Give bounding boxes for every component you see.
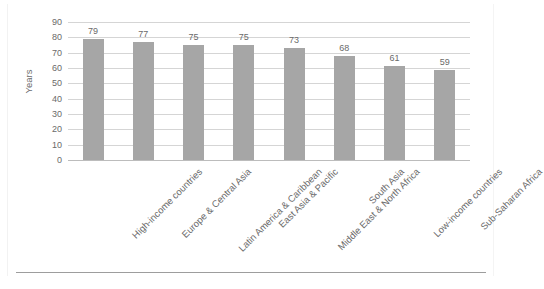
bar[interactable] — [434, 70, 455, 160]
bar[interactable] — [233, 45, 254, 160]
plot-area — [68, 22, 470, 160]
x-axis-category-label: Middle East & North Africa — [336, 166, 422, 252]
y-axis-tick-label: 30 — [40, 110, 62, 119]
y-axis-tick-label: 0 — [40, 156, 62, 165]
y-axis-title: Years — [8, 62, 48, 102]
x-axis-category-label: Latin America & Caribbean — [236, 166, 324, 254]
x-axis-category-label: Europe & Central Asia — [180, 166, 254, 240]
y-axis-tick-label: 80 — [40, 33, 62, 42]
gridline — [68, 37, 470, 38]
figure-right-rule — [493, 4, 494, 276]
bar[interactable] — [83, 39, 104, 160]
x-axis-category-label: Sub-Saharan Africa — [478, 166, 544, 232]
figure-left-rule — [7, 4, 8, 276]
y-axis-tick-label: 20 — [40, 125, 62, 134]
bar[interactable] — [183, 45, 204, 160]
gridline — [68, 114, 470, 115]
gridline — [68, 68, 470, 69]
y-axis-title-text: Years — [23, 54, 34, 110]
bar[interactable] — [384, 66, 405, 160]
x-axis-category-label: East Asia & Pacific — [276, 166, 340, 230]
y-axis-tick-label: 70 — [40, 49, 62, 58]
gridline — [68, 83, 470, 84]
y-axis-tick-label: 10 — [40, 141, 62, 150]
gridline — [68, 145, 470, 146]
bar[interactable] — [133, 42, 154, 160]
x-axis-category-label: South Asia — [367, 166, 407, 206]
figure-bottom-rule — [16, 272, 486, 273]
y-axis-tick-label: 90 — [40, 18, 62, 27]
axis-baseline — [68, 160, 470, 161]
x-axis-category-label: High-income countries — [130, 166, 205, 241]
gridline — [68, 53, 470, 54]
gridline — [68, 99, 470, 100]
bar[interactable] — [334, 56, 355, 160]
bar[interactable] — [284, 48, 305, 160]
gridline — [68, 129, 470, 130]
gridline — [68, 22, 470, 23]
